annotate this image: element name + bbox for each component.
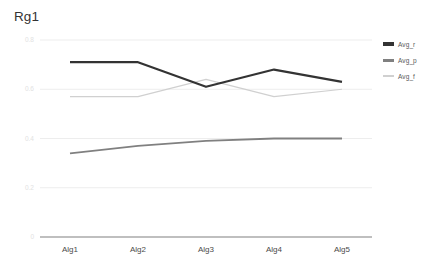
line-chart: Rg1 00.20.40.60.8 Alg1Alg2Alg3Alg4Alg5 A…: [0, 0, 429, 274]
series-line-avg_r: [70, 62, 342, 87]
y-tick-label: 0.6: [12, 85, 34, 93]
x-tick-label: Alg1: [45, 245, 95, 255]
series-line-avg_f: [70, 79, 342, 96]
y-tick-label: 0.2: [12, 184, 34, 192]
legend-entry[interactable]: Avg_p: [383, 52, 429, 68]
legend-swatch-icon: [383, 75, 394, 77]
legend-entry[interactable]: Avg_r: [383, 36, 429, 52]
x-tick-label: Alg4: [249, 245, 299, 255]
series-line-avg_p: [70, 139, 342, 154]
y-tick-label: 0.4: [12, 135, 34, 143]
legend-label: Avg_f: [398, 73, 415, 80]
y-tick-label: 0: [12, 233, 34, 241]
x-tick-label: Alg3: [181, 245, 231, 255]
chart-legend: Avg_rAvg_pAvg_f: [383, 36, 429, 84]
plot-svg: [0, 0, 429, 274]
legend-entry[interactable]: Avg_f: [383, 68, 429, 84]
legend-label: Avg_r: [398, 41, 415, 48]
legend-swatch-icon: [383, 42, 394, 45]
legend-label: Avg_p: [398, 57, 417, 64]
series-lines: [70, 62, 342, 153]
x-tick-label: Alg5: [317, 245, 367, 255]
y-tick-label: 0.8: [12, 36, 34, 44]
plot-area: 00.20.40.60.8 Alg1Alg2Alg3Alg4Alg5: [0, 0, 429, 274]
x-tick-label: Alg2: [113, 245, 163, 255]
legend-swatch-icon: [383, 59, 394, 62]
